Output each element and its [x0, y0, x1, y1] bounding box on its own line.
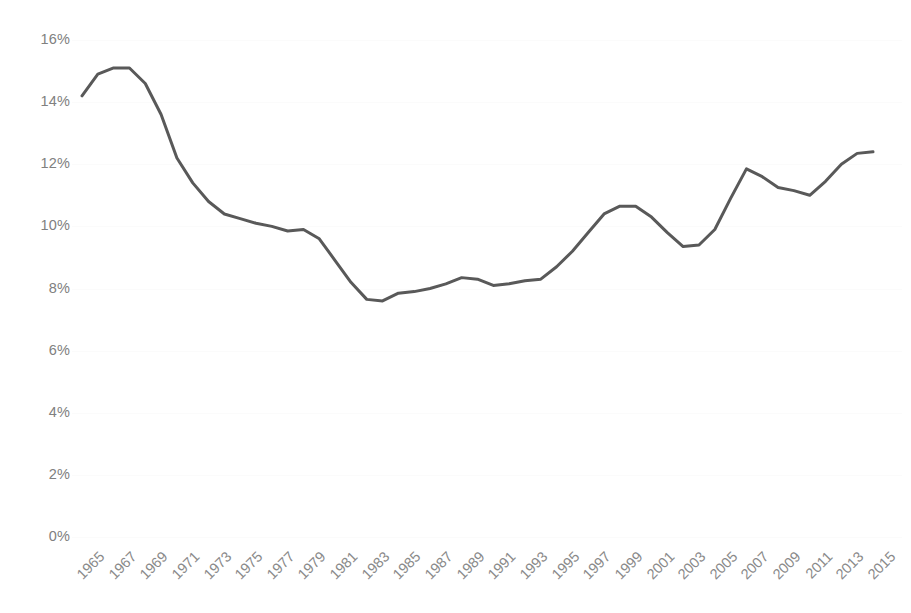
plot-area: 16%14%12%10%8%6%4%2%0% 19651967196919711…: [0, 0, 911, 613]
x-axis: 1965196719691971197319751977197919811983…: [0, 0, 911, 613]
chart-container: 16%14%12%10%8%6%4%2%0% 19651967196919711…: [0, 0, 911, 613]
